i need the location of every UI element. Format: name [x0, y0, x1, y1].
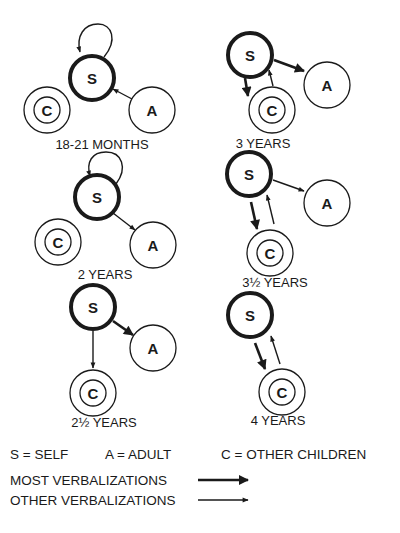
panel-label: 18-21 MONTHS — [55, 137, 149, 152]
children-node-label: C — [277, 384, 288, 401]
adult-node-label: A — [148, 340, 159, 357]
legend-self-key: S = SELF — [10, 447, 68, 462]
children-node: C — [35, 219, 81, 265]
arrow-children-to-self — [271, 336, 280, 364]
panel-label: 2½ YEARS — [71, 415, 137, 430]
self-node-label: S — [245, 47, 255, 64]
children-node-label: C — [265, 245, 276, 262]
arrow-children-to-self — [267, 195, 274, 224]
self-node-label: S — [244, 166, 254, 183]
children-node: C — [249, 87, 295, 133]
children-node: C — [259, 369, 305, 415]
arrow-self-to-adult — [273, 180, 304, 191]
self-node-label: S — [92, 189, 102, 206]
panel-label: 3½ YEARS — [242, 275, 308, 290]
self-node-label: S — [87, 70, 97, 87]
panel-label: 3 YEARS — [236, 136, 291, 151]
legend-other-label: OTHER VERBALIZATIONS — [10, 493, 176, 508]
panel-3-half-years: S A C 3½ YEARS — [227, 152, 350, 290]
children-node-label: C — [88, 385, 99, 402]
children-node: C — [247, 230, 293, 276]
self-loop-arrow — [79, 24, 112, 57]
panel-label: 4 YEARS — [251, 413, 306, 428]
arrow-self-to-children — [255, 343, 265, 369]
arrow-self-to-children — [245, 78, 248, 96]
panel-18-21-months: S C A 18-21 MONTHS — [24, 24, 175, 152]
panel-2-years: S C A 2 YEARS — [35, 152, 176, 282]
children-node-label: C — [267, 102, 278, 119]
adult-node-label: A — [148, 237, 159, 254]
children-node: C — [70, 370, 116, 416]
children-node: C — [24, 87, 70, 133]
arrow-self-to-adult — [113, 213, 135, 230]
arrow-children-to-self — [269, 70, 273, 86]
legend-children-key: C = OTHER CHILDREN — [221, 447, 366, 462]
adult-node-label: A — [322, 195, 333, 212]
verbalization-diagram: S C A 18-21 MONTHS S C A 2 YEARS S A — [0, 0, 400, 533]
panel-4-years: S C 4 YEARS — [228, 293, 306, 428]
children-node-label: C — [53, 234, 64, 251]
self-node-label: S — [88, 299, 98, 316]
legend-most-label: MOST VERBALIZATIONS — [10, 473, 167, 488]
children-node-label: C — [42, 102, 53, 119]
arrow-self-to-adult — [274, 60, 304, 71]
arrow-self-to-adult — [113, 321, 133, 335]
adult-node-label: A — [322, 77, 333, 94]
panel-label: 2 YEARS — [78, 267, 133, 282]
arrow-self-to-children — [251, 202, 257, 229]
legend-adult-key: A = ADULT — [105, 447, 171, 462]
panel-3-years: S A C 3 YEARS — [228, 33, 350, 151]
legend: S = SELF A = ADULT C = OTHER CHILDREN MO… — [10, 447, 366, 508]
arrow-adult-to-self — [113, 89, 132, 99]
adult-node-label: A — [147, 102, 158, 119]
self-node-label: S — [245, 307, 255, 324]
panel-2-half-years: S A C 2½ YEARS — [70, 285, 176, 430]
